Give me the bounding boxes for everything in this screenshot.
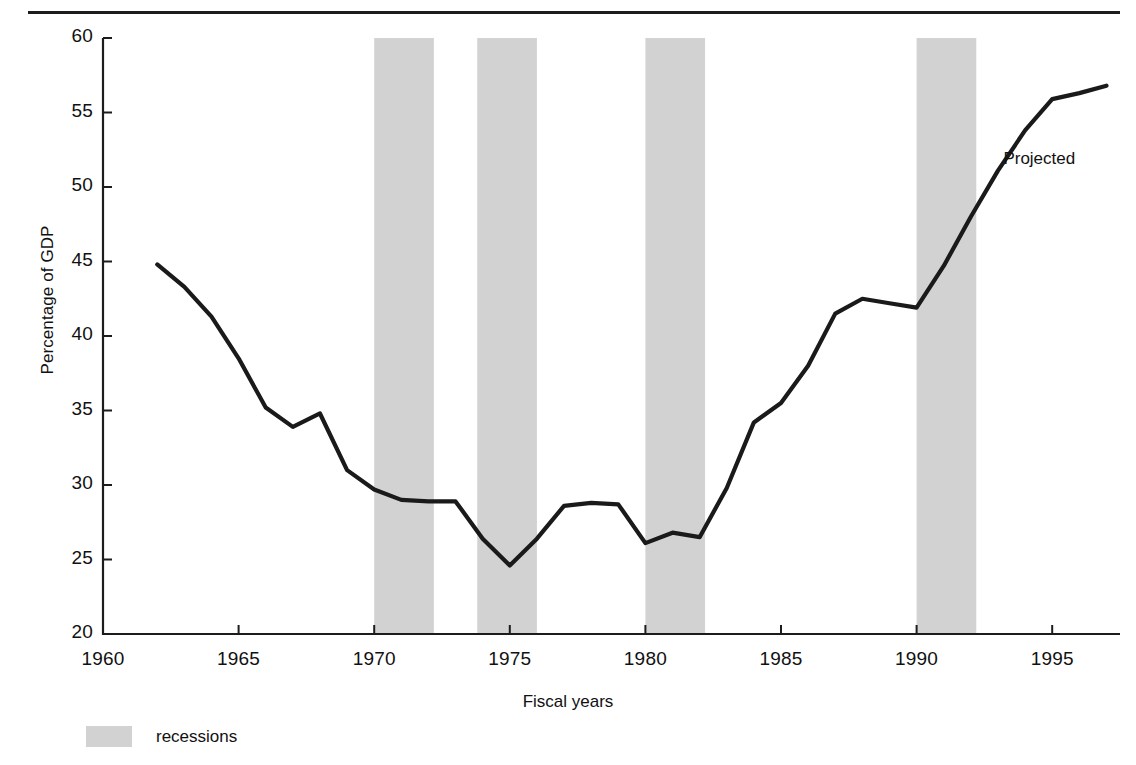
x-tick-label: 1970 bbox=[329, 648, 419, 670]
chart-legend: recessions bbox=[86, 726, 237, 747]
x-tick-label: 1965 bbox=[194, 648, 284, 670]
x-tick-label: 1980 bbox=[600, 648, 690, 670]
x-tick-label: 1985 bbox=[736, 648, 826, 670]
recession-bands-group bbox=[374, 38, 976, 634]
chart-figure: Percentage of GDP Fiscal years 202530354… bbox=[0, 0, 1136, 765]
legend-swatch-recessions bbox=[86, 726, 132, 747]
projected-annotation-label: Projected bbox=[1003, 149, 1075, 169]
recession-band bbox=[374, 38, 434, 634]
y-tick-label: 20 bbox=[41, 621, 93, 643]
x-axis-title: Fiscal years bbox=[0, 692, 1136, 712]
y-axis-title: Percentage of GDP bbox=[38, 190, 58, 410]
y-tick-label: 45 bbox=[41, 249, 93, 271]
y-tick-label: 40 bbox=[41, 323, 93, 345]
y-tick-label: 55 bbox=[41, 100, 93, 122]
x-tick-label: 1995 bbox=[1007, 648, 1097, 670]
recession-band bbox=[917, 38, 977, 634]
y-tick-label: 35 bbox=[41, 398, 93, 420]
y-tick-label: 60 bbox=[41, 25, 93, 47]
x-tick-label: 1990 bbox=[872, 648, 962, 670]
recession-band bbox=[645, 38, 705, 634]
chart-plot-area bbox=[0, 0, 1136, 765]
legend-label-recessions: recessions bbox=[156, 727, 237, 747]
axis-ticks-group bbox=[103, 38, 1052, 634]
x-tick-label: 1975 bbox=[465, 648, 555, 670]
y-tick-label: 50 bbox=[41, 174, 93, 196]
x-tick-label: 1960 bbox=[58, 648, 148, 670]
y-tick-label: 25 bbox=[41, 547, 93, 569]
y-tick-label: 30 bbox=[41, 472, 93, 494]
